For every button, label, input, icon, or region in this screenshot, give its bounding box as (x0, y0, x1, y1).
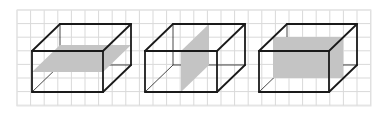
cuboid-horizontal-section (32, 24, 131, 92)
section-plane (32, 45, 131, 72)
section-plane (181, 24, 209, 92)
cuboid-sections-diagram (0, 0, 387, 115)
cuboid-vertical-side-section (145, 24, 245, 92)
diagram-stage (0, 0, 387, 115)
cuboid-vertical-front-section (259, 24, 357, 92)
section-plane (273, 37, 343, 78)
